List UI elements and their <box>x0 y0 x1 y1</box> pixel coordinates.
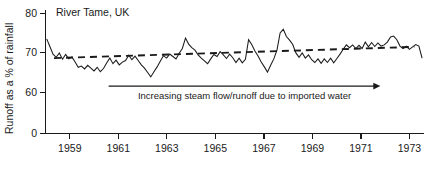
y-ticks <box>40 14 46 134</box>
annotation-arrow-head <box>373 83 380 90</box>
trend-dashed-line <box>54 47 414 58</box>
x-ticks <box>70 134 410 140</box>
y-tick-label-80: 80 <box>25 7 37 19</box>
x-tick-label-1959: 1959 <box>58 142 82 154</box>
x-tick-label-1965: 1965 <box>204 142 228 154</box>
runoff-line-chart: Runoff as a % of rainfall River Tame, UK… <box>0 0 427 169</box>
x-tick-label-1961: 1961 <box>107 142 131 154</box>
x-tick-label-1969: 1969 <box>301 142 325 154</box>
annotation-label: Increasing steam flow/runoff due to impo… <box>138 90 351 101</box>
x-tick-label-1967: 1967 <box>252 142 276 154</box>
x-tick-label-1963: 1963 <box>155 142 179 154</box>
chart-figure: Runoff as a % of rainfall River Tame, UK… <box>0 0 427 169</box>
x-tick-labels: 19591961196319651967196919711973 <box>58 142 421 154</box>
y-tick-label-0: 0 <box>31 127 37 139</box>
annotation-group: Increasing steam flow/runoff due to impo… <box>109 83 381 101</box>
y-tick-label-70: 70 <box>25 46 37 58</box>
axes <box>46 10 425 134</box>
chart-title: River Tame, UK <box>56 6 129 18</box>
y-axis-label: Runoff as a % of rainfall <box>3 23 15 134</box>
y-tick-label-60: 60 <box>25 86 37 98</box>
x-tick-label-1971: 1971 <box>349 142 373 154</box>
x-tick-label-1973: 1973 <box>398 142 422 154</box>
y-tick-labels: 80 70 60 0 <box>25 7 37 139</box>
